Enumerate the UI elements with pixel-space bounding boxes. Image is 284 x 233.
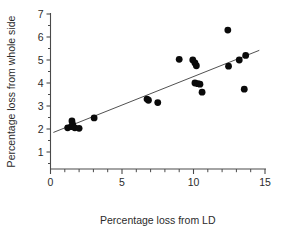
data-point: [224, 27, 231, 34]
data-point: [76, 125, 83, 132]
data-point: [197, 81, 204, 88]
data-point: [145, 97, 152, 104]
data-point: [242, 52, 249, 59]
data-point: [241, 86, 248, 93]
data-point: [154, 99, 161, 106]
y-axis-tick-label: 4: [38, 77, 44, 89]
x-axis-tick-label: 0: [48, 176, 54, 188]
y-axis-tick-label: 6: [38, 31, 44, 43]
x-axis-tick-label: 15: [259, 176, 271, 188]
data-point: [225, 63, 232, 70]
y-axis-tick-label: 2: [38, 123, 44, 135]
y-axis-tick-label: 7: [38, 8, 44, 20]
plot-area: 1234567051015Percentage loss from LDPerc…: [0, 0, 284, 233]
regression-line: [53, 50, 259, 132]
data-point: [176, 56, 183, 63]
y-axis-tick-label: 3: [38, 100, 44, 112]
x-axis-tick-label: 10: [188, 176, 200, 188]
scatter-chart: 1234567051015Percentage loss from LDPerc…: [0, 0, 284, 233]
x-axis-title: Percentage loss from LD: [100, 214, 216, 226]
data-point: [199, 89, 206, 96]
y-axis-tick-label: 1: [38, 146, 44, 158]
data-point: [91, 115, 98, 122]
y-axis-title: Percentage loss from whole side: [5, 15, 17, 167]
data-point: [193, 62, 200, 69]
data-point: [236, 57, 243, 64]
x-axis-tick-label: 5: [119, 176, 125, 188]
y-axis-tick-label: 5: [38, 54, 44, 66]
